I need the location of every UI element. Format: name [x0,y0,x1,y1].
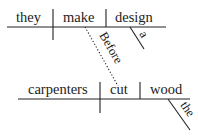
diagram-svg: they make design a Before carpenters cut… [0,0,198,138]
main-object: design [115,9,154,25]
main-verb: make [63,9,94,25]
sub-subject: carpenters [28,81,88,97]
sub-object: wood [150,81,183,97]
sub-verb: cut [110,81,128,97]
connector-word: Before [96,30,125,67]
sentence-diagram: they make design a Before carpenters cut… [0,0,198,138]
main-subject: they [16,9,42,25]
main-object-modifier: a [136,28,151,41]
